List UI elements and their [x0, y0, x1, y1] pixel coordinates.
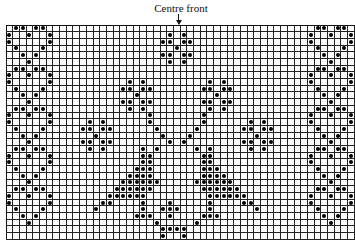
- stitch-dot: [249, 147, 253, 151]
- stitch-dot: [222, 100, 226, 104]
- stitch-dot: [316, 67, 320, 71]
- stitch-dot: [336, 174, 340, 178]
- stitch-dot: [48, 80, 52, 84]
- stitch-dot: [202, 214, 206, 218]
- stitch-dot: [168, 60, 172, 64]
- stitch-dot: [202, 187, 206, 191]
- stitch-dot: [208, 201, 212, 205]
- stitch-dot: [41, 87, 45, 91]
- stitch-dot: [336, 147, 340, 151]
- stitch-dot: [7, 201, 11, 205]
- stitch-dot: [322, 67, 326, 71]
- stitch-dot: [148, 154, 152, 158]
- stitch-dot: [316, 127, 320, 131]
- stitch-dot: [336, 214, 340, 218]
- stitch-dot: [182, 40, 186, 44]
- stitch-dot: [148, 174, 152, 178]
- stitch-dot: [21, 214, 25, 218]
- stitch-dot: [41, 147, 45, 151]
- stitch-dot: [195, 147, 199, 151]
- stitch-dot: [222, 87, 226, 91]
- stitch-dot: [108, 127, 112, 131]
- stitch-dot: [41, 187, 45, 191]
- stitch-dot: [115, 187, 119, 191]
- stitch-dot: [182, 33, 186, 37]
- stitch-dot: [235, 194, 239, 198]
- stitch-dot: [128, 80, 132, 84]
- stitch-dot: [128, 194, 132, 198]
- stitch-dot: [121, 87, 125, 91]
- stitch-dot: [88, 120, 92, 124]
- stitch-dot: [316, 107, 320, 111]
- stitch-dot: [316, 207, 320, 211]
- stitch-dot: [48, 33, 52, 37]
- stitch-dot: [336, 187, 340, 191]
- stitch-dot: [222, 194, 226, 198]
- grid-cell: [348, 233, 355, 240]
- stitch-dot: [101, 127, 105, 131]
- stitch-dot: [148, 87, 152, 91]
- stitch-dot: [255, 134, 259, 138]
- stitch-dot: [101, 201, 105, 205]
- stitch-dot: [316, 87, 320, 91]
- stitch-dot: [316, 26, 320, 30]
- stitch-dot: [215, 194, 219, 198]
- stitch-dot: [309, 201, 313, 205]
- stitch-dot: [14, 147, 18, 151]
- stitch-dot: [48, 194, 52, 198]
- stitch-dot: [336, 67, 340, 71]
- stitch-dot: [41, 67, 45, 71]
- stitch-dot: [41, 167, 45, 171]
- stitch-dot: [14, 87, 18, 91]
- stitch-dot: [14, 127, 18, 131]
- stitch-dot: [202, 120, 206, 124]
- stitch-dot: [349, 80, 353, 84]
- stitch-dot: [88, 140, 92, 144]
- stitch-dot: [141, 201, 145, 205]
- stitch-dot: [128, 174, 132, 178]
- stitch-dot: [182, 234, 186, 238]
- stitch-dot: [336, 134, 340, 138]
- stitch-dot: [48, 73, 52, 77]
- stitch-dot: [249, 140, 253, 144]
- centre-front-label: Centre front: [150, 2, 212, 14]
- stitch-dot: [215, 174, 219, 178]
- stitch-dot: [349, 194, 353, 198]
- stitch-dot: [48, 154, 52, 158]
- stitch-dot: [242, 194, 246, 198]
- stitch-dot: [135, 194, 139, 198]
- stitch-dot: [182, 140, 186, 144]
- stitch-dot: [14, 67, 18, 71]
- stitch-dot: [128, 107, 132, 111]
- stitch-dot: [329, 100, 333, 104]
- stitch-dot: [48, 120, 52, 124]
- stitch-dot: [329, 154, 333, 158]
- stitch-dot: [195, 127, 199, 131]
- stitch-dot: [168, 201, 172, 205]
- stitch-dot: [128, 87, 132, 91]
- stitch-dot: [262, 127, 266, 131]
- stitch-dot: [21, 187, 25, 191]
- stitch-dot: [21, 134, 25, 138]
- stitch-dot: [48, 40, 52, 44]
- stitch-dot: [21, 67, 25, 71]
- stitch-dot: [349, 40, 353, 44]
- stitch-dot: [336, 107, 340, 111]
- stitch-dot: [48, 201, 52, 205]
- stitch-dot: [322, 107, 326, 111]
- stitch-dot: [135, 174, 139, 178]
- stitch-dot: [182, 53, 186, 57]
- stitch-dot: [21, 53, 25, 57]
- stitch-dot: [316, 167, 320, 171]
- stitch-dot: [269, 127, 273, 131]
- stitch-dot: [135, 214, 139, 218]
- stitch-dot: [269, 140, 273, 144]
- stitch-dot: [155, 221, 159, 225]
- stitch-dot: [41, 107, 45, 111]
- stitch-dot: [202, 174, 206, 178]
- stitch-dot: [88, 127, 92, 131]
- stitch-dot: [202, 100, 206, 104]
- stitch-dot: [342, 67, 346, 71]
- stitch-dot: [41, 127, 45, 131]
- stitch-dot: [242, 201, 246, 205]
